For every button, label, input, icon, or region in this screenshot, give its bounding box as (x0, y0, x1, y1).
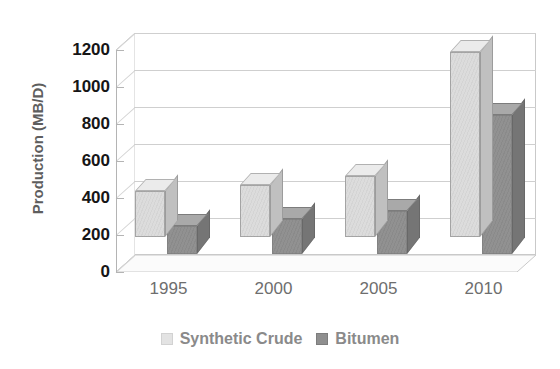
light-gray-swatch-icon (161, 333, 173, 345)
plot-floor (116, 255, 536, 272)
bar-side-face (480, 35, 493, 237)
bar[interactable] (135, 191, 165, 237)
y-axis-tick (116, 198, 124, 199)
x-axis-tick-label: 2010 (431, 279, 536, 299)
legend-label: Bitumen (335, 330, 399, 348)
y-axis-tick (116, 50, 124, 51)
y-axis-tick-label: 200 (48, 226, 110, 243)
bar[interactable] (450, 52, 480, 237)
legend-label: Synthetic Crude (180, 330, 303, 348)
y-axis-tick (116, 272, 124, 273)
y-axis-tick (116, 87, 124, 88)
bar-side-face (512, 99, 525, 254)
plot-area (116, 33, 536, 271)
bar[interactable] (240, 185, 270, 237)
production-bar-chart: Production (MB/D) 020040060080010001200 … (0, 0, 560, 369)
y-axis-tick-label: 800 (48, 115, 110, 132)
bar-front-face (167, 226, 197, 254)
chart-legend: Synthetic CrudeBitumen (0, 330, 560, 348)
bar[interactable] (167, 226, 197, 254)
y-axis-tick-label: 1200 (48, 41, 110, 58)
x-axis-tick-label: 1995 (116, 279, 221, 299)
y-axis-title: Production (MB/D) (29, 49, 46, 249)
legend-entry[interactable]: Bitumen (316, 330, 399, 348)
bar-front-face (135, 191, 165, 237)
bar-group (135, 32, 210, 254)
x-axis-tick-labels: 1995200020052010 (116, 279, 536, 305)
dark-gray-swatch-icon (316, 333, 328, 345)
x-axis-tick-label: 2000 (221, 279, 326, 299)
y-axis-tick-labels: 020040060080010001200 (48, 0, 110, 369)
y-axis-tick-label: 1000 (48, 78, 110, 95)
bar-group (240, 32, 315, 254)
bar-front-face (345, 176, 375, 237)
y-axis-tick-label: 400 (48, 189, 110, 206)
y-axis-tick (116, 235, 124, 236)
bar-group (345, 32, 420, 254)
bar-front-face (450, 52, 480, 237)
legend-entry[interactable]: Synthetic Crude (161, 330, 303, 348)
bar-group (450, 32, 525, 254)
bar-front-face (240, 185, 270, 237)
bar[interactable] (345, 176, 375, 237)
y-axis-tick-label: 0 (48, 263, 110, 280)
y-axis-tick-label: 600 (48, 152, 110, 169)
y-axis-tick (116, 124, 124, 125)
x-axis-tick-label: 2005 (326, 279, 431, 299)
y-axis-tick (116, 161, 124, 162)
